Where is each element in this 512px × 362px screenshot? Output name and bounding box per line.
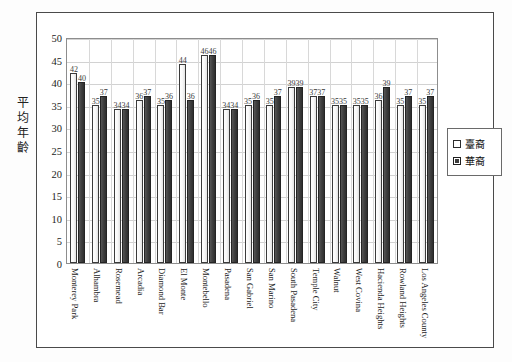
bar-value-label: 39 <box>288 79 296 88</box>
bar-group: 3637 <box>132 39 154 263</box>
bar-taiwanese: 35 <box>332 105 339 263</box>
bar-taiwanese: 44 <box>179 64 186 263</box>
y-axis-tick-label: 30 <box>18 123 67 134</box>
scan-artifact-text: — ———— — — —— — — —— — — — <box>22 0 252 3</box>
x-axis-labels: Monterey ParkAlhambraRosemeadArcadiaDiam… <box>66 266 438 358</box>
bar-chinese: 46 <box>209 55 216 263</box>
bar-group: 3537 <box>415 39 437 263</box>
y-axis-tick-label: 45 <box>18 55 67 66</box>
bar-chinese: 37 <box>144 96 151 263</box>
bar-taiwanese: 34 <box>223 109 230 263</box>
bar-value-label: 35 <box>331 97 339 106</box>
bar-value-label: 37 <box>274 88 282 97</box>
bar-group: 3537 <box>263 39 285 263</box>
x-axis-label: Montebello <box>197 266 219 358</box>
x-axis-label: Los Angeles County <box>416 266 438 358</box>
bar-group: 4240 <box>67 39 89 263</box>
x-axis-label-text: Montebello <box>201 268 211 308</box>
bar-taiwanese: 35 <box>353 105 360 263</box>
x-axis-label-text: Alhambra <box>92 268 102 302</box>
bar-value-label: 46 <box>200 47 208 56</box>
x-axis-label-text: El Monte <box>179 268 189 300</box>
bar-group: 3434 <box>111 39 133 263</box>
bar-value-label: 37 <box>426 88 434 97</box>
bar-value-label: 39 <box>296 79 304 88</box>
bar-group: 3639 <box>372 39 394 263</box>
bar-taiwanese: 36 <box>136 100 143 263</box>
x-axis-label: Walnut <box>329 266 351 358</box>
bar-value-label: 34 <box>113 101 121 110</box>
bar-value-label: 35 <box>92 97 100 106</box>
bar-value-label: 36 <box>187 92 195 101</box>
bar-value-label: 37 <box>404 88 412 97</box>
bar-taiwanese: 37 <box>310 96 317 263</box>
x-axis-label: West Covina <box>350 266 372 358</box>
y-axis-tick-label: 40 <box>18 78 67 89</box>
x-axis-label-text: Arcadia <box>136 268 146 295</box>
bar-value-label: 39 <box>383 79 391 88</box>
x-axis-label: San Marino <box>263 266 285 358</box>
legend-swatch-icon-taiwanese <box>453 140 461 148</box>
y-axis-tick-label: 25 <box>18 146 67 157</box>
bar-value-label: 36 <box>252 92 260 101</box>
bar-group: 4436 <box>176 39 198 263</box>
y-axis-tick-label: 50 <box>18 33 67 44</box>
x-axis-label-text: West Covina <box>354 268 364 312</box>
bar-value-label: 35 <box>418 97 426 106</box>
bar-group: 3537 <box>89 39 111 263</box>
bar-value-label: 37 <box>309 88 317 97</box>
bar-taiwanese: 34 <box>114 109 121 263</box>
x-axis-label-text: Hacienda Heights <box>376 268 386 329</box>
bar-value-label: 35 <box>157 97 165 106</box>
bar-value-label: 42 <box>70 65 78 74</box>
bar-value-label: 37 <box>317 88 325 97</box>
bar-chinese: 37 <box>274 96 281 263</box>
legend-item-taiwanese: 臺裔 <box>453 136 497 151</box>
x-axis-label: Rowland Heights <box>394 266 416 358</box>
bar-chinese: 39 <box>383 87 390 263</box>
x-axis-label: Hacienda Heights <box>372 266 394 358</box>
x-axis-label-text: Diamond Bar <box>157 268 167 315</box>
x-axis-label-text: Walnut <box>332 268 342 293</box>
bar-group: 3536 <box>154 39 176 263</box>
x-axis-label: Pasadena <box>219 266 241 358</box>
bar-taiwanese: 35 <box>397 105 404 263</box>
bar-value-label: 35 <box>361 97 369 106</box>
bar-taiwanese: 35 <box>266 105 273 263</box>
bar-group: 3537 <box>393 39 415 263</box>
bar-value-label: 36 <box>135 92 143 101</box>
x-axis-label: South Pasadena <box>285 266 307 358</box>
x-axis-label-text: Temple City <box>311 268 321 311</box>
x-axis-label-text: South Pasadena <box>289 268 299 322</box>
plot-area: 4240353734343637353644364646343435363537… <box>66 38 438 264</box>
bar-value-label: 37 <box>143 88 151 97</box>
bar-chinese: 37 <box>427 96 434 263</box>
bar-chinese: 37 <box>405 96 412 263</box>
bar-value-label: 36 <box>375 92 383 101</box>
bar-chinese: 34 <box>231 109 238 263</box>
bar-taiwanese: 35 <box>419 105 426 263</box>
chart-page: — ———— — — —— — — —— — — — 平 均 年 齡 42403… <box>0 0 512 362</box>
bar-chinese: 36 <box>165 100 172 263</box>
x-axis-label: El Monte <box>175 266 197 358</box>
bar-taiwanese: 35 <box>92 105 99 263</box>
bar-value-label: 35 <box>244 97 252 106</box>
bar-value-label: 35 <box>339 97 347 106</box>
bar-value-label: 36 <box>165 92 173 101</box>
x-axis-label-text: Pasadena <box>223 268 233 300</box>
bar-groups: 4240353734343637353644364646343435363537… <box>67 39 437 263</box>
bar-value-label: 37 <box>100 88 108 97</box>
x-axis-label-text: Rowland Heights <box>398 268 408 328</box>
bar-group: 3737 <box>306 39 328 263</box>
bar-value-label: 34 <box>222 101 230 110</box>
bar-chinese: 40 <box>78 82 85 263</box>
bar-taiwanese: 42 <box>70 73 77 263</box>
bar-value-label: 34 <box>230 101 238 110</box>
x-axis-label: Alhambra <box>88 266 110 358</box>
bar-value-label: 46 <box>208 47 216 56</box>
legend-item-chinese: 華裔 <box>453 153 497 168</box>
legend-label-chinese: 華裔 <box>465 153 485 168</box>
x-axis-label-text: Los Angeles County <box>420 268 430 338</box>
x-axis-label-text: Rosemead <box>114 268 124 304</box>
bar-chinese: 37 <box>100 96 107 263</box>
